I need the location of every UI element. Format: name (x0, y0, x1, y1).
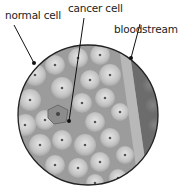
bloodstream-label: bloodstream (114, 23, 178, 35)
cancer-cell-label: cancer cell (68, 2, 123, 14)
normal-cell-label: normal cell (5, 9, 61, 21)
